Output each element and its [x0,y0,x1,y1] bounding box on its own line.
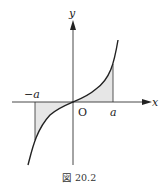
neg-a-label: −a [24,88,40,101]
x-axis-label: x [152,96,159,109]
shaded-region-right [73,64,113,102]
figure-caption: 図 20.2 [62,172,96,183]
y-axis-label: y [68,7,76,20]
x-axis-arrow-icon [142,99,152,105]
origin-label: O [78,106,87,119]
odd-function-diagram: y x O −a a 図 20.2 [0,0,167,187]
y-axis-arrow-icon [70,20,76,30]
pos-a-label: a [110,106,117,119]
shaded-region-left [35,102,73,140]
